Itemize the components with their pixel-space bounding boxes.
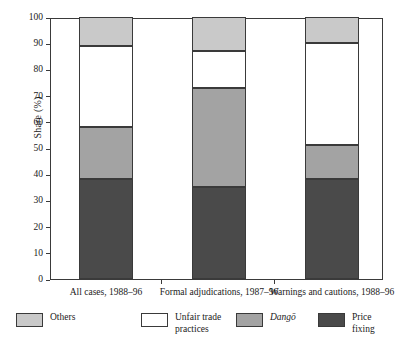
segment-others — [305, 17, 359, 43]
segment-unfair-trade-practices — [192, 51, 246, 88]
segment-price-fixing — [305, 179, 359, 279]
y-tick-label: 20 — [34, 221, 44, 234]
legend-swatch-dango-icon — [236, 313, 263, 327]
legend-item-price-fixing: Price fixing — [318, 312, 375, 335]
legend-label: Unfair trade practices — [175, 312, 221, 335]
y-tick-label: 50 — [34, 142, 44, 155]
y-tick-label: 60 — [34, 116, 44, 129]
bar-warnings-and-cautions — [305, 17, 359, 279]
legend-item-unfair-trade-practices: Unfair trade practices — [141, 312, 221, 335]
legend-label: Dangō — [270, 312, 296, 324]
segment-unfair-trade-practices — [305, 43, 359, 145]
y-tick-label: 90 — [34, 37, 44, 50]
y-tick-label: 100 — [29, 11, 43, 24]
y-tick-label: 10 — [34, 247, 44, 260]
legend-swatch-price-fixing-icon — [318, 313, 345, 327]
segment-others — [79, 17, 133, 46]
y-tick-label: 0 — [38, 273, 43, 286]
x-axis-label-all-cases: All cases, 1988–96 — [41, 286, 171, 298]
y-tick-label: 80 — [34, 63, 44, 76]
segment-unfair-trade-practices — [79, 46, 133, 127]
y-tick-label: 30 — [34, 194, 44, 207]
x-tick-mark — [274, 280, 275, 284]
y-tick-label: 70 — [34, 90, 44, 103]
x-axis-label-warnings-and-cautions: Warnings and cautions, 1988–96 — [267, 286, 397, 298]
legend-label: Price fixing — [352, 312, 375, 335]
legend-swatch-unfair-trade-practices-icon — [141, 313, 168, 327]
segment-dango — [305, 145, 359, 179]
y-tick-label: 40 — [34, 168, 44, 181]
segment-others — [192, 17, 246, 51]
chart-legend: Others Unfair trade practices Dangō Pric… — [0, 312, 397, 346]
segment-dango — [79, 127, 133, 179]
stacked-bar-chart: Share (%) 100 90 80 70 60 50 40 — [0, 0, 397, 346]
bar-all-cases — [79, 17, 133, 279]
legend-swatch-others-icon — [16, 313, 43, 327]
legend-label: Others — [50, 312, 75, 324]
segment-dango — [192, 88, 246, 188]
x-tick-mark — [161, 280, 162, 284]
plot-area — [50, 18, 383, 280]
segment-price-fixing — [192, 187, 246, 279]
bar-formal-adjudications — [192, 17, 246, 279]
y-axis-ticks: 100 90 80 70 60 50 40 30 — [0, 18, 50, 280]
legend-item-dango: Dangō — [236, 312, 296, 327]
x-axis-label-formal-adjudications: Formal adjudications, 1987–96 — [154, 286, 284, 298]
segment-price-fixing — [79, 179, 133, 279]
legend-item-others: Others — [16, 312, 75, 327]
